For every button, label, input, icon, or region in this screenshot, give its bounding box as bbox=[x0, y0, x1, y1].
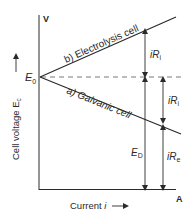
svg-text:iRi: iRi bbox=[168, 95, 179, 107]
x-axis-unit: A bbox=[176, 194, 183, 204]
label-iri-mid: iRi bbox=[168, 95, 179, 107]
x-axis-label: Current i bbox=[70, 200, 107, 211]
svg-text:iRi: iRi bbox=[150, 49, 161, 61]
svg-text:Cell voltage Ec: Cell voltage Ec bbox=[10, 97, 22, 160]
e0-label: E0 bbox=[25, 71, 36, 85]
svg-text:ED: ED bbox=[131, 147, 143, 159]
y-axis-label: Cell voltage Ec bbox=[10, 97, 22, 160]
electrolysis-label: b) Electrolysis cell bbox=[62, 22, 140, 64]
galvanic-label: a) Galvanic cell bbox=[65, 85, 133, 121]
label-ed: ED bbox=[131, 147, 143, 159]
cell-voltage-diagram: V A b) Electrolysis cell a) Galvanic cel… bbox=[0, 0, 194, 217]
label-ire: iRe bbox=[167, 151, 180, 163]
electrolysis-line bbox=[40, 17, 176, 77]
svg-text:E0: E0 bbox=[25, 71, 36, 85]
y-axis-unit: V bbox=[43, 14, 49, 24]
label-iri-top: iRi bbox=[150, 49, 161, 61]
svg-text:iRe: iRe bbox=[167, 151, 180, 163]
